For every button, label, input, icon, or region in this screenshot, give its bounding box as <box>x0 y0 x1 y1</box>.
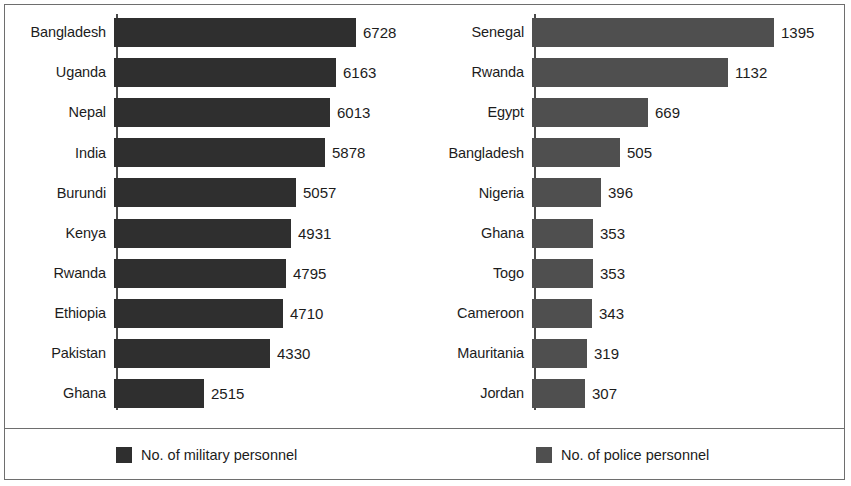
bar[interactable] <box>532 178 601 207</box>
bar-category-label: Ghana <box>6 386 114 401</box>
bar-category-label: Ethiopia <box>6 306 114 321</box>
bar-row: Bangladesh505 <box>424 138 844 167</box>
bar[interactable] <box>532 259 593 288</box>
bar-container: 2515 <box>114 379 420 408</box>
chart-legend: No. of military personnel No. of police … <box>4 430 845 480</box>
bar-category-label: Rwanda <box>6 266 114 281</box>
bar[interactable] <box>114 138 325 167</box>
legend-swatch-police-icon <box>536 447 552 463</box>
bar[interactable] <box>114 178 296 207</box>
bar-container: 4710 <box>114 299 420 328</box>
bar-category-label: Rwanda <box>424 65 532 80</box>
legend-label-military: No. of military personnel <box>141 448 297 463</box>
bar-category-label: Burundi <box>6 186 114 201</box>
bar-value-label: 6163 <box>336 65 376 80</box>
bar[interactable] <box>532 58 728 87</box>
bar-container: 4931 <box>114 219 420 248</box>
bar-row: Rwanda1132 <box>424 58 844 87</box>
bar[interactable] <box>532 98 648 127</box>
bar-container: 307 <box>532 379 844 408</box>
legend-swatch-military-icon <box>116 447 132 463</box>
bar-row: Uganda6163 <box>6 58 420 87</box>
bar-row: Egypt669 <box>424 98 844 127</box>
bar-container: 5878 <box>114 138 420 167</box>
bar[interactable] <box>114 299 283 328</box>
bar-rows-police: Senegal1395Rwanda1132Egypt669Bangladesh5… <box>424 18 844 408</box>
legend-label-police: No. of police personnel <box>561 448 709 463</box>
bar-value-label: 4795 <box>286 266 326 281</box>
bar-container: 6163 <box>114 58 420 87</box>
bar-row: Ethiopia4710 <box>6 299 420 328</box>
bar[interactable] <box>532 299 592 328</box>
bar-row: Togo353 <box>424 259 844 288</box>
bar-value-label: 4931 <box>291 226 331 241</box>
bar-row: Rwanda4795 <box>6 259 420 288</box>
bar-value-label: 4710 <box>283 306 323 321</box>
bar-container: 6728 <box>114 18 420 47</box>
bar-value-label: 353 <box>593 266 625 281</box>
bar[interactable] <box>114 259 286 288</box>
bar[interactable] <box>114 18 356 47</box>
bar[interactable] <box>532 138 620 167</box>
bar-value-label: 307 <box>585 386 617 401</box>
bar-row: Nigeria396 <box>424 178 844 207</box>
bar-value-label: 353 <box>593 226 625 241</box>
bar-value-label: 4330 <box>270 346 310 361</box>
bar[interactable] <box>532 379 585 408</box>
bar-value-label: 343 <box>592 306 624 321</box>
bar-container: 1132 <box>532 58 844 87</box>
bar-container: 4795 <box>114 259 420 288</box>
bar-container: 1395 <box>532 18 844 47</box>
bar-category-label: Kenya <box>6 226 114 241</box>
bar-rows-military: Bangladesh6728Uganda6163Nepal6013India58… <box>6 18 420 408</box>
bar-value-label: 1132 <box>728 65 767 80</box>
bar-category-label: Senegal <box>424 25 532 40</box>
bar[interactable] <box>532 339 587 368</box>
bar-value-label: 5878 <box>325 145 365 160</box>
chart-panel-military: Bangladesh6728Uganda6163Nepal6013India58… <box>6 10 420 420</box>
bar-value-label: 319 <box>587 346 619 361</box>
bar-category-label: Egypt <box>424 105 532 120</box>
bar-category-label: Nigeria <box>424 186 532 201</box>
bar-row: Senegal1395 <box>424 18 844 47</box>
bar-value-label: 2515 <box>204 386 244 401</box>
bar-container: 505 <box>532 138 844 167</box>
bar-category-label: Ghana <box>424 226 532 241</box>
bar[interactable] <box>114 98 330 127</box>
chart-figure: Bangladesh6728Uganda6163Nepal6013India58… <box>0 0 851 486</box>
bar[interactable] <box>114 58 336 87</box>
bar[interactable] <box>532 219 593 248</box>
chart-panel-police: Senegal1395Rwanda1132Egypt669Bangladesh5… <box>424 10 844 420</box>
bar-value-label: 5057 <box>296 185 336 200</box>
bar[interactable] <box>532 18 774 47</box>
bar-category-label: Cameroon <box>424 306 532 321</box>
bar-container: 6013 <box>114 98 420 127</box>
bar-category-label: Togo <box>424 266 532 281</box>
bar[interactable] <box>114 339 270 368</box>
bar-category-label: Pakistan <box>6 346 114 361</box>
bar-row: Kenya4931 <box>6 219 420 248</box>
bar-row: Nepal6013 <box>6 98 420 127</box>
bar-row: Ghana2515 <box>6 379 420 408</box>
bar-container: 4330 <box>114 339 420 368</box>
bar-category-label: Jordan <box>424 386 532 401</box>
bar-row: Pakistan4330 <box>6 339 420 368</box>
bar-row: Jordan307 <box>424 379 844 408</box>
bar-category-label: Uganda <box>6 65 114 80</box>
bar-value-label: 6728 <box>356 25 396 40</box>
bar-value-label: 6013 <box>330 105 370 120</box>
plot-legend-divider <box>4 428 845 429</box>
bar-row: Ghana353 <box>424 219 844 248</box>
bar[interactable] <box>114 379 204 408</box>
bar-container: 396 <box>532 178 844 207</box>
bar-row: Mauritania319 <box>424 339 844 368</box>
legend-item-police[interactable]: No. of police personnel <box>536 447 709 463</box>
bar-container: 353 <box>532 259 844 288</box>
bar-container: 353 <box>532 219 844 248</box>
bar-value-label: 1395 <box>774 25 814 40</box>
bar[interactable] <box>114 219 291 248</box>
bar-category-label: India <box>6 146 114 161</box>
legend-item-military[interactable]: No. of military personnel <box>116 447 297 463</box>
bar-row: Cameroon343 <box>424 299 844 328</box>
bar-value-label: 669 <box>648 105 680 120</box>
